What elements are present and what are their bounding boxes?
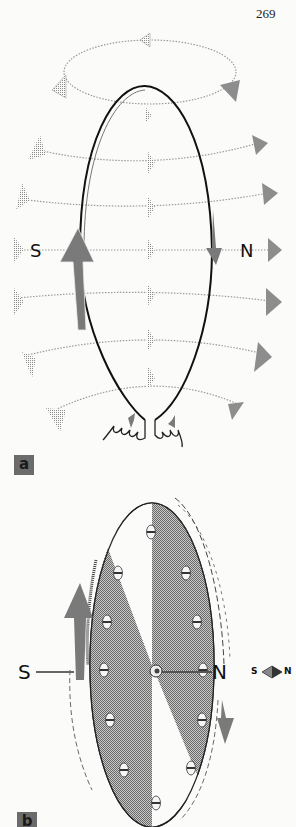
rotation-arrow-down — [217, 700, 234, 744]
figure-a-south-pole-label: S — [30, 242, 41, 260]
figure-a-diagram — [0, 0, 296, 827]
compass-north-label: N — [284, 666, 292, 676]
compass-needle-icon — [262, 666, 282, 678]
compass-south-label: S — [251, 666, 257, 676]
figure-b-north-pole-label: N — [212, 662, 227, 682]
current-direction-small-arrows — [128, 413, 175, 428]
field-arrowheads — [14, 135, 282, 432]
current-arrow-down — [206, 210, 222, 265]
current-loop — [80, 86, 212, 420]
figure-b-disk — [70, 498, 230, 827]
figure-b-south-pole-label: S — [18, 662, 31, 682]
figure-b-label: b — [17, 812, 37, 827]
figure-a-north-pole-label: N — [240, 242, 253, 260]
figure-a-label: a — [14, 455, 34, 475]
field-line-top-ring — [52, 33, 240, 122]
